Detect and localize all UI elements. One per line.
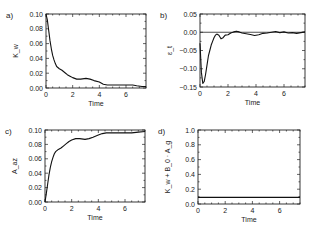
y-tick-label: 0.8 (185, 141, 195, 148)
x-tick-label: 2 (226, 90, 230, 97)
panel-label: a) (6, 11, 13, 20)
panel-label: b) (160, 11, 167, 20)
y-tick-label: −0.15 (179, 84, 197, 91)
y-tick-label: 0.00 (183, 29, 197, 36)
x-tick-label: 0 (196, 207, 200, 214)
data-line (45, 131, 145, 202)
data-line (200, 31, 305, 83)
panel-a: 02460.000.020.040.060.080.10TimeK_wa) (6, 11, 146, 108)
x-tick-label: 6 (124, 91, 128, 98)
figure: 02460.000.020.040.060.080.10TimeK_wa)024… (0, 0, 315, 236)
y-tick-label: 0.06 (29, 40, 43, 47)
x-axis-label: Time (87, 214, 102, 221)
x-tick-label: 6 (278, 207, 282, 214)
x-tick-label: 4 (96, 205, 100, 212)
y-tick-label: 0.05 (183, 11, 197, 18)
x-tick-label: 0 (43, 205, 47, 212)
y-tick-label: 0.08 (28, 141, 42, 148)
panel-label: d) (158, 127, 165, 136)
y-axis-label: ε_t (166, 46, 174, 55)
chart-canvas: 02460.000.020.040.060.080.10TimeK_wa)024… (0, 0, 315, 236)
y-tick-label: 0.06 (28, 155, 42, 162)
y-tick-label: 0.6 (185, 156, 195, 163)
x-tick-label: 4 (254, 90, 258, 97)
panel-d: 02460.00.20.40.60.81.0TimeK_w + B_0 · A_… (158, 127, 300, 224)
panel-c: 02460.000.020.040.060.080.10TimeA_azc) (5, 127, 145, 222)
x-tick-label: 4 (97, 91, 101, 98)
y-tick-label: 0.10 (28, 127, 42, 134)
plot-frame (200, 14, 305, 87)
y-tick-label: 0.4 (185, 171, 195, 178)
y-tick-label: 0.08 (29, 25, 43, 32)
y-tick-label: −0.05 (179, 47, 197, 54)
x-tick-label: 4 (250, 207, 254, 214)
plot-frame (46, 14, 146, 88)
y-tick-label: 0.04 (28, 170, 42, 177)
x-tick-label: 2 (223, 207, 227, 214)
x-tick-label: 6 (282, 90, 286, 97)
plot-frame (198, 130, 300, 204)
data-line (46, 14, 146, 87)
y-tick-label: 0.00 (29, 85, 43, 92)
y-tick-label: 0.00 (28, 199, 42, 206)
y-tick-label: 0.10 (29, 11, 43, 18)
y-tick-label: 0.2 (185, 186, 195, 193)
y-axis-label: K_w + B_0 · A_g (164, 141, 172, 193)
x-axis-label: Time (88, 100, 103, 107)
y-tick-label: 1.0 (185, 127, 195, 134)
x-axis-label: Time (241, 216, 256, 223)
x-tick-label: 2 (71, 91, 75, 98)
x-tick-label: 6 (123, 205, 127, 212)
y-axis-label: A_az (11, 158, 19, 174)
y-axis-label: K_w (12, 43, 20, 58)
x-axis-label: Time (245, 99, 260, 106)
y-tick-label: 0.0 (185, 201, 195, 208)
y-tick-label: −0.10 (179, 65, 197, 72)
panel-b: 0246−0.15−0.10−0.050.000.05Timeε_tb) (160, 11, 305, 107)
x-tick-label: 0 (198, 90, 202, 97)
plot-frame (45, 130, 145, 202)
y-tick-label: 0.02 (29, 70, 43, 77)
y-tick-label: 0.02 (28, 184, 42, 191)
x-tick-label: 0 (44, 91, 48, 98)
y-tick-label: 0.04 (29, 55, 43, 62)
x-tick-label: 2 (70, 205, 74, 212)
panel-label: c) (5, 127, 12, 136)
